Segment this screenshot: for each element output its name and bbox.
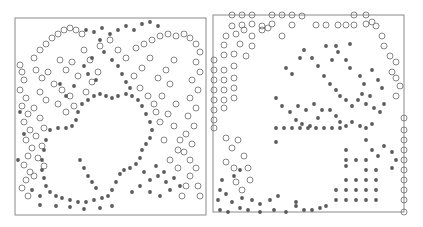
filled-dot-marker	[158, 194, 162, 198]
filled-dot-marker	[316, 116, 320, 120]
open-circle-marker	[175, 165, 181, 171]
filled-dot-marker	[338, 120, 342, 124]
filled-dot-marker	[74, 118, 78, 122]
open-circle-marker	[43, 41, 49, 47]
filled-dot-marker	[238, 168, 242, 172]
open-circle-marker	[35, 155, 41, 161]
filled-dot-marker	[268, 198, 272, 202]
filled-dot-marker	[382, 102, 386, 106]
open-circle-marker	[67, 25, 73, 31]
filled-dot-marker	[344, 164, 348, 168]
open-circle-marker	[241, 27, 247, 33]
filled-dot-marker	[148, 190, 152, 194]
filled-dot-marker	[364, 168, 368, 172]
filled-dot-marker	[82, 64, 86, 68]
filled-dot-marker	[68, 205, 72, 209]
filled-dot-marker	[42, 148, 46, 152]
open-circle-marker	[139, 65, 145, 71]
filled-dot-marker	[324, 44, 328, 48]
filled-dot-marker	[100, 26, 104, 30]
open-circle-marker	[23, 137, 29, 143]
open-circle-marker	[79, 31, 85, 37]
filled-dot-marker	[86, 72, 90, 76]
filled-dot-marker	[328, 108, 332, 112]
filled-dot-marker	[162, 170, 166, 174]
filled-dot-marker	[250, 198, 254, 202]
open-circle-marker	[167, 157, 173, 163]
filled-dot-marker	[60, 196, 64, 200]
open-circle-marker	[343, 22, 349, 28]
filled-dot-marker	[354, 198, 358, 202]
open-circle-marker	[231, 75, 237, 81]
open-circle-marker	[221, 105, 227, 111]
open-circle-marker	[167, 81, 173, 87]
open-circle-marker	[19, 69, 25, 75]
filled-dot-marker	[274, 140, 278, 144]
open-circle-marker	[145, 93, 151, 99]
open-circle-marker	[51, 81, 57, 87]
filled-dot-marker	[344, 198, 348, 202]
filled-dot-marker	[302, 208, 306, 212]
filled-dot-marker	[218, 188, 222, 192]
filled-dot-marker	[132, 28, 136, 32]
filled-dot-marker	[230, 200, 234, 204]
open-circle-marker	[229, 145, 235, 151]
filled-dot-marker	[114, 180, 118, 184]
open-circle-marker	[187, 95, 193, 101]
open-circle-marker	[229, 12, 235, 18]
open-circle-marker	[115, 47, 121, 53]
filled-dot-marker	[350, 120, 354, 124]
filled-dot-marker	[172, 176, 176, 180]
open-circle-marker	[147, 55, 153, 61]
open-circle-marker	[195, 87, 201, 93]
filled-dot-marker	[156, 174, 160, 178]
open-circle-marker	[25, 153, 31, 159]
filled-dot-marker	[140, 22, 144, 26]
filled-dot-marker	[356, 98, 360, 102]
filled-dot-marker	[354, 158, 358, 162]
open-circle-marker	[131, 73, 137, 79]
filled-dot-marker	[294, 118, 298, 122]
filled-dot-marker	[70, 124, 74, 128]
filled-dot-marker	[90, 180, 94, 184]
open-circle-marker	[239, 12, 245, 18]
open-circle-marker	[313, 22, 319, 28]
open-circle-marker	[133, 45, 139, 51]
filled-dot-marker	[370, 68, 374, 72]
open-circle-marker	[279, 33, 285, 39]
filled-dot-marker	[140, 148, 144, 152]
open-circle-marker	[17, 62, 23, 68]
filled-dot-marker	[294, 200, 298, 204]
filled-dot-marker	[316, 64, 320, 68]
filled-dot-marker	[138, 184, 142, 188]
filled-dot-marker	[294, 204, 298, 208]
filled-dot-marker	[144, 142, 148, 146]
filled-dot-marker	[310, 208, 314, 212]
filled-dot-marker	[124, 92, 128, 96]
filled-dot-marker	[258, 210, 262, 214]
filled-dot-marker	[280, 104, 284, 108]
open-circle-marker	[393, 93, 399, 99]
filled-dot-marker	[44, 138, 48, 142]
filled-dot-marker	[354, 178, 358, 182]
filled-dot-marker	[240, 196, 244, 200]
filled-dot-marker	[122, 168, 126, 172]
open-circle-marker	[107, 37, 113, 43]
filled-dot-marker	[350, 104, 354, 108]
open-circle-marker	[259, 23, 265, 29]
filled-dot-marker	[322, 126, 326, 130]
filled-dot-marker	[364, 102, 368, 106]
filled-dot-marker	[110, 58, 114, 62]
open-circle-marker	[21, 162, 27, 168]
open-circle-marker	[153, 109, 159, 115]
open-circle-marker	[21, 119, 27, 125]
filled-dot-marker	[134, 162, 138, 166]
filled-dot-marker	[110, 96, 114, 100]
filled-dot-marker	[102, 50, 106, 54]
open-circle-marker	[289, 12, 295, 18]
open-circle-marker	[181, 31, 187, 37]
open-circle-marker	[269, 12, 275, 18]
scatter-canvas-left	[0, 0, 211, 227]
filled-dot-marker	[86, 174, 90, 178]
filled-dot-marker	[42, 176, 46, 180]
